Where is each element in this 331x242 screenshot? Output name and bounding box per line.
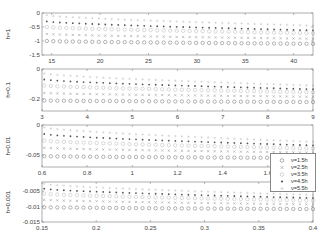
svg-text:-0.015: -0.015 [22, 218, 40, 225]
legend-entry: ν=1.5h [271, 157, 317, 164]
svg-text:0.6: 0.6 [38, 169, 47, 176]
plus-marker-icon [279, 185, 285, 192]
legend-entry: ν=3.5h [271, 171, 317, 178]
subplot-3: 0.60.811.21.41.60-0.05h=0.01 [4, 121, 315, 176]
svg-text:0.4: 0.4 [309, 224, 318, 231]
svg-text:-1: -1 [34, 37, 40, 44]
svg-text:25: 25 [145, 57, 152, 64]
svg-text:0.15: 0.15 [36, 224, 49, 231]
open-circle-marker-icon [279, 157, 285, 164]
legend-label: ν=4.5h [291, 178, 308, 185]
light-circle-marker-icon [279, 171, 285, 178]
legend-label: ν=2.5h [291, 164, 308, 171]
svg-text:0.35: 0.35 [253, 224, 266, 231]
svg-text:0: 0 [37, 65, 41, 72]
svg-text:0.3: 0.3 [200, 224, 209, 231]
svg-text:0: 0 [37, 121, 41, 128]
subplot-1: 1520253035400-0.5-1-1.5h=1 [4, 9, 315, 64]
svg-text:h=0.01: h=0.01 [4, 136, 11, 156]
svg-text:1: 1 [131, 169, 135, 176]
svg-text:1.4: 1.4 [218, 169, 227, 176]
svg-text:7: 7 [221, 113, 225, 120]
legend-label: ν=5.5h [291, 185, 308, 192]
svg-text:-0.05: -0.05 [26, 151, 41, 158]
svg-text:1.2: 1.2 [173, 169, 182, 176]
svg-text:-0.2: -0.2 [29, 95, 40, 102]
svg-text:-0.01: -0.01 [26, 203, 41, 210]
svg-text:0.8: 0.8 [83, 169, 92, 176]
x-marker-icon [279, 164, 285, 171]
svg-text:15: 15 [48, 57, 55, 64]
svg-text:h=1: h=1 [4, 28, 11, 39]
figure: 1520253035400-0.5-1-1.5h=134567890-0.2h=… [0, 0, 331, 242]
svg-text:30: 30 [193, 57, 200, 64]
legend-entry: ν=4.5h [271, 178, 317, 185]
legend-label: ν=1.5h [291, 157, 308, 164]
svg-text:6: 6 [176, 113, 180, 120]
svg-text:h=0.001: h=0.001 [4, 190, 11, 213]
svg-text:-0.005: -0.005 [22, 187, 40, 194]
legend-label: ν=3.5h [291, 171, 308, 178]
legend-entry: ν=2.5h [271, 164, 317, 171]
svg-text:5: 5 [131, 113, 135, 120]
svg-text:3: 3 [40, 113, 44, 120]
svg-text:8: 8 [266, 113, 270, 120]
svg-text:-1.5: -1.5 [29, 51, 40, 58]
legend: ν=1.5h ν=2.5h ν=3.5h ν=4.5h ν=5.5h [270, 153, 316, 192]
filled-dot-marker-icon [279, 178, 285, 185]
svg-text:0: 0 [37, 9, 41, 16]
svg-text:9: 9 [311, 113, 315, 120]
svg-text:40: 40 [290, 57, 297, 64]
svg-text:20: 20 [97, 57, 104, 64]
svg-text:0.25: 0.25 [144, 224, 157, 231]
svg-text:0.2: 0.2 [92, 224, 101, 231]
subplot-2: 34567890-0.2h=0.1 [4, 65, 315, 120]
svg-text:35: 35 [242, 57, 249, 64]
svg-text:h=0.1: h=0.1 [4, 82, 11, 98]
svg-text:-0.5: -0.5 [29, 23, 40, 30]
svg-text:4: 4 [85, 113, 89, 120]
legend-entry: ν=5.5h [271, 185, 317, 192]
